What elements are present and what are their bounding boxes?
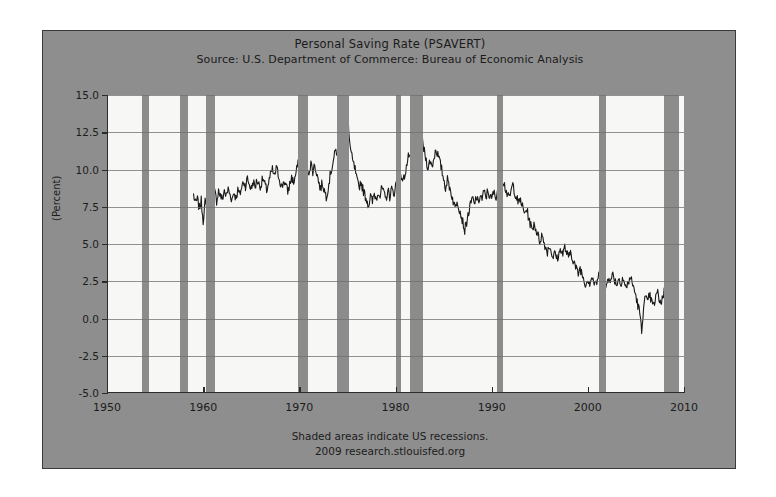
- x-tick-label: 2010: [654, 401, 714, 414]
- y-tick-mark: [102, 319, 108, 320]
- gridline-horizontal: [107, 170, 684, 171]
- x-tick-mark: [107, 387, 108, 393]
- y-tick-mark: [102, 95, 108, 96]
- y-tick-mark: [102, 393, 108, 394]
- footer-recession-note: Shaded areas indicate US recessions.: [43, 429, 737, 444]
- gridline-horizontal: [107, 95, 684, 96]
- chart-screenshot: Personal Saving Rate (PSAVERT) Source: U…: [0, 0, 776, 497]
- y-tick-label: 7.5: [59, 202, 99, 212]
- x-tick-label: 1980: [366, 401, 426, 414]
- chart-panel: Personal Saving Rate (PSAVERT) Source: U…: [42, 30, 736, 469]
- x-tick-label: 1970: [269, 401, 329, 414]
- y-tick-label: 5.0: [59, 239, 99, 249]
- x-tick-label: 2000: [558, 401, 618, 414]
- x-tick-mark: [299, 387, 300, 393]
- gridline-horizontal: [107, 244, 684, 245]
- y-tick-label: -2.5: [59, 351, 99, 361]
- y-tick-label: 10.0: [59, 165, 99, 175]
- plot-area: [107, 95, 684, 393]
- gridline-horizontal: [107, 319, 684, 320]
- x-tick-label: 1960: [173, 401, 233, 414]
- y-tick-label: 2.5: [59, 276, 99, 286]
- x-tick-mark: [588, 387, 589, 393]
- y-tick-mark: [102, 281, 108, 282]
- x-tick-mark: [396, 387, 397, 393]
- gridline-horizontal: [107, 132, 684, 133]
- x-tick-label: 1950: [77, 401, 137, 414]
- x-tick-label: 1990: [462, 401, 522, 414]
- y-tick-mark: [102, 132, 108, 133]
- chart-title-block: Personal Saving Rate (PSAVERT) Source: U…: [43, 37, 737, 67]
- gridline-horizontal: [107, 281, 684, 282]
- y-tick-mark: [102, 207, 108, 208]
- chart-subtitle: Source: U.S. Department of Commerce: Bur…: [43, 52, 737, 67]
- x-tick-mark: [492, 387, 493, 393]
- y-axis-label: (Percent): [51, 176, 62, 221]
- x-tick-mark: [684, 387, 685, 393]
- footer-source-note: 2009 research.stlouisfed.org: [43, 444, 737, 459]
- chart-title: Personal Saving Rate (PSAVERT): [43, 37, 737, 52]
- y-tick-mark: [102, 356, 108, 357]
- y-tick-label: 0.0: [59, 314, 99, 324]
- y-tick-mark: [102, 170, 108, 171]
- gridline-horizontal: [107, 207, 684, 208]
- x-tick-mark: [203, 387, 204, 393]
- y-tick-label: 12.5: [59, 127, 99, 137]
- y-tick-mark: [102, 244, 108, 245]
- y-tick-label: 15.0: [59, 90, 99, 100]
- gridline-horizontal: [107, 356, 684, 357]
- y-tick-label: -5.0: [59, 388, 99, 398]
